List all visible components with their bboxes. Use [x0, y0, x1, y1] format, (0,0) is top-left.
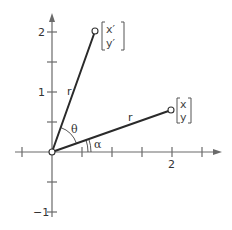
matrix-y: y — [180, 111, 187, 124]
matrix-xy-prime: x′ y′ — [102, 22, 124, 50]
original-length-label: r — [128, 111, 133, 124]
matrix-yprime: y′ — [106, 37, 116, 50]
y-tick-label-1: 1 — [38, 86, 45, 99]
y-axis: 2 1 −1 — [33, 13, 57, 219]
rotation-diagram: 2 2 1 −1 — [0, 0, 232, 230]
rotated-length-label: r — [67, 85, 72, 98]
alpha-label: α — [94, 138, 102, 151]
x-tick-label-2: 2 — [168, 158, 175, 171]
alpha-arc-inner — [86, 140, 88, 152]
alpha-arc-outer — [89, 139, 91, 152]
y-tick-label-neg1: −1 — [33, 206, 49, 219]
x-axis-arrow-icon — [213, 149, 222, 155]
point-xy — [168, 107, 174, 113]
matrix-xy: x y — [177, 98, 191, 124]
point-xy-prime — [92, 28, 98, 34]
y-axis-arrow-icon — [49, 13, 55, 22]
origin-point — [49, 149, 55, 155]
y-tick-label-2: 2 — [38, 26, 45, 39]
matrix-x: x — [180, 98, 187, 111]
x-axis: 2 — [15, 147, 222, 171]
matrix-xprime: x′ — [106, 23, 116, 36]
theta-label: θ — [71, 123, 78, 136]
